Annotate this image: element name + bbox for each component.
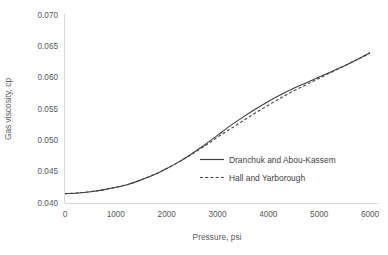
x-tick-label: 5000 [310,210,329,219]
y-tick-label: 0.040 [38,199,59,208]
chart-background [0,0,388,255]
chart-canvas: 0.070 0.065 0.060 0.055 0.050 0.045 0.04… [0,0,388,255]
legend-label-hall-yarborough: Hall and Yarborough [229,173,305,183]
y-tick-label: 0.070 [38,11,59,20]
y-tick-label: 0.055 [38,105,59,114]
y-tick-label: 0.065 [38,42,59,51]
x-tick-label: 4000 [259,210,278,219]
x-tick-label: 0 [63,210,68,219]
y-axis-title: Gas viscosity, cp [3,78,13,141]
x-tick-label: 6000 [361,210,380,219]
y-tick-label: 0.045 [38,167,59,176]
x-tick-label: 1000 [107,210,126,219]
gas-viscosity-chart: 0.070 0.065 0.060 0.055 0.050 0.045 0.04… [0,0,388,255]
y-tick-label: 0.060 [38,73,59,82]
y-tick-label: 0.050 [38,136,59,145]
x-tick-label: 3000 [208,210,227,219]
x-axis-title: Pressure, psi [193,232,242,242]
legend-label-dranchuk-abou-kassem: Dranchuk and Abou-Kassem [229,155,336,165]
x-tick-label: 2000 [158,210,177,219]
